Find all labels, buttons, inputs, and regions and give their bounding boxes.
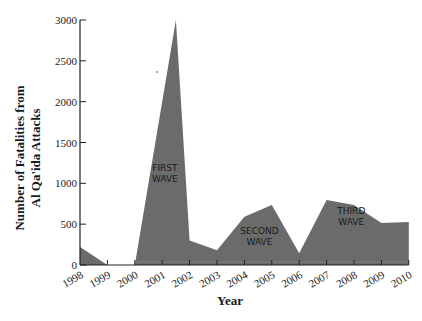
x-tick-label: 2009 bbox=[361, 268, 386, 290]
y-tick-label: 2500 bbox=[55, 55, 78, 67]
y-tick-label: 2000 bbox=[55, 96, 78, 108]
x-tick-label: 2008 bbox=[334, 268, 359, 290]
y-axis-title-line-1: Number of Fatalities from bbox=[12, 85, 27, 230]
x-tick-label: 2005 bbox=[252, 268, 277, 290]
x-tick-label: 2003 bbox=[197, 268, 222, 290]
x-tick-label: 2007 bbox=[307, 268, 332, 290]
y-tick-label: 3000 bbox=[55, 14, 78, 26]
x-tick-label: 2010 bbox=[389, 268, 414, 290]
x-axis-title: Year bbox=[217, 293, 243, 308]
stray-dot bbox=[156, 71, 158, 73]
y-tick-label: 1000 bbox=[55, 177, 78, 189]
wave-label: THIRDWAVE bbox=[336, 206, 365, 227]
x-tick-label: 1998 bbox=[60, 268, 85, 290]
x-tick-label: 2001 bbox=[142, 268, 167, 289]
y-axis-title-line-2: Al Qa'ida Attacks bbox=[28, 109, 43, 208]
x-tick-label: 2004 bbox=[224, 268, 249, 290]
y-tick-label: 500 bbox=[61, 218, 78, 230]
x-tick-label: 1999 bbox=[87, 268, 112, 290]
x-tick-label: 2002 bbox=[170, 268, 195, 289]
x-tick-label: 2000 bbox=[115, 268, 140, 290]
chart: FIRSTWAVESECONDWAVETHIRDWAVE 05001000150… bbox=[0, 0, 422, 321]
x-tick-label: 2006 bbox=[279, 268, 304, 290]
y-tick-label: 1500 bbox=[55, 137, 78, 149]
wave-label: FIRSTWAVE bbox=[152, 163, 178, 184]
y-axis-title: Number of Fatalities from Al Qa'ida Atta… bbox=[12, 85, 43, 230]
y-axis-ticks: 050010001500200025003000 bbox=[55, 14, 86, 271]
